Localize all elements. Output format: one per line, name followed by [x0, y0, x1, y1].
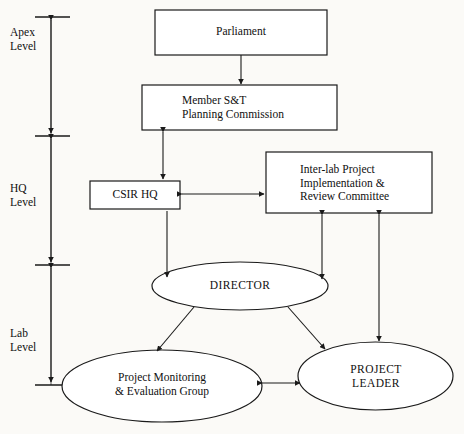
axis-label-apex-level: Apex Level	[10, 26, 46, 54]
org-chart-diagram: Apex Level HQ Level Lab Level Parliament…	[0, 0, 464, 434]
node-project-leader	[298, 342, 453, 410]
node-inter-lab-committee	[266, 152, 432, 213]
edge-director-to-project-leader	[288, 307, 325, 349]
node-parliament	[155, 10, 327, 55]
diagram-canvas	[0, 0, 464, 434]
edge-director-to-project-monitoring	[157, 307, 194, 351]
node-member-st	[142, 85, 337, 130]
node-project-monitoring	[62, 350, 262, 422]
axis-label-lab-level: Lab Level	[10, 327, 46, 355]
axis-label-hq-level: HQ Level	[10, 182, 46, 210]
node-director	[152, 262, 328, 310]
node-csir-hq	[90, 181, 180, 209]
